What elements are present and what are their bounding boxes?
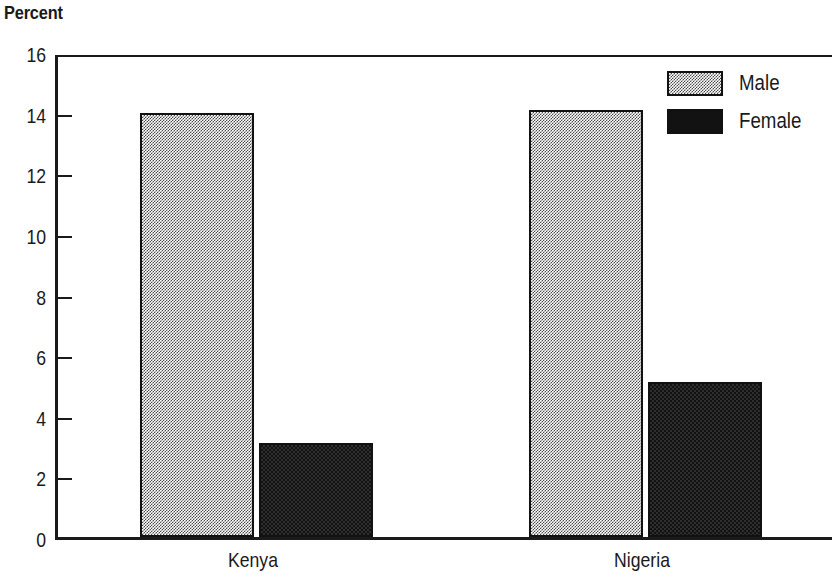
y-axis-tick bbox=[55, 478, 72, 480]
y-axis-tick-label: 6 bbox=[7, 346, 46, 370]
legend: Male Female bbox=[667, 64, 827, 140]
legend-item-male: Male bbox=[667, 64, 827, 102]
y-axis-tick bbox=[55, 175, 72, 177]
bar-kenya-male bbox=[140, 113, 254, 537]
y-axis-tick-label: 14 bbox=[7, 104, 46, 128]
y-axis-tick bbox=[55, 357, 72, 359]
x-axis-label-nigeria: Nigeria bbox=[558, 548, 726, 572]
y-axis-tick-label: 8 bbox=[7, 286, 46, 310]
legend-item-female: Female bbox=[667, 102, 827, 140]
y-axis-tick-label: 0 bbox=[7, 528, 46, 552]
x-axis-label-kenya: Kenya bbox=[169, 548, 337, 572]
bar-chart: Percent 1614121086420 KenyaNigeria Male … bbox=[0, 0, 834, 581]
y-axis-tick-label: 2 bbox=[7, 467, 46, 491]
y-axis-tick bbox=[55, 115, 72, 117]
y-axis-tick bbox=[55, 236, 72, 238]
legend-swatch-female-icon bbox=[667, 109, 723, 134]
bar-nigeria-female bbox=[648, 382, 762, 537]
legend-label-male: Male bbox=[739, 70, 780, 96]
y-axis-tick-label: 16 bbox=[7, 43, 46, 67]
legend-label-female: Female bbox=[739, 108, 801, 134]
y-axis-tick-label: 4 bbox=[7, 407, 46, 431]
bar-nigeria-male bbox=[529, 110, 643, 537]
y-axis-tick-label: 12 bbox=[7, 164, 46, 188]
legend-swatch-male-icon bbox=[667, 71, 723, 96]
y-axis-tick bbox=[55, 297, 72, 299]
y-axis-tick bbox=[55, 418, 72, 420]
y-axis-tick-label: 10 bbox=[7, 225, 46, 249]
y-axis-title: Percent bbox=[4, 2, 63, 24]
bar-kenya-female bbox=[259, 443, 373, 537]
